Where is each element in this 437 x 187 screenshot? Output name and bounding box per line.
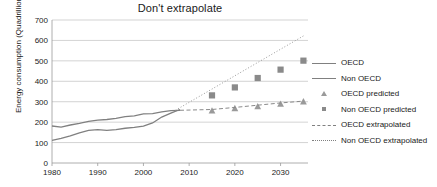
y-axis-tick-label: 0 [44,159,48,168]
y-axis-tick-label: 700 [35,16,48,25]
legend-key-solid-line-icon [311,57,337,69]
y-axis-tick-label: 600 [35,36,48,45]
data-marker-triangle [209,107,216,113]
legend-item-oecd-extrapolated[interactable]: OECD extrapolated [311,117,435,133]
series-line-non-oecd-extrapolated [175,36,303,110]
y-axis-tick-label: 300 [35,97,48,106]
legend-key-dashed-line-icon [311,119,337,131]
legend: OECD Non OECD OECD predicted Non OECD pr… [311,55,435,148]
legend-label: OECD predicted [341,89,399,98]
y-axis-tick-label: 100 [35,138,48,147]
data-marker-square [209,92,215,98]
legend-item-oecd[interactable]: OECD [311,55,435,71]
x-axis-tick-label: 1990 [89,168,107,177]
legend-key-square-marker-icon [311,103,337,115]
data-marker-triangle [254,103,261,109]
chart-title: Don't extrapolate [52,2,308,14]
y-axis-tick-label: 400 [35,77,48,86]
x-axis-tick-label: 1980 [43,168,61,177]
data-marker-square [232,84,238,90]
y-axis-label: Energy consumption (Quadrillion Btu) [14,0,23,117]
y-axis-tick-label: 200 [35,118,48,127]
x-axis-tick-label: 2010 [180,168,198,177]
legend-item-non-oecd-extrapolated[interactable]: Non OECD extrapolated [311,133,435,149]
x-axis-tick-label: 2030 [272,168,290,177]
legend-label: OECD extrapolated [341,120,410,129]
legend-label: Non OECD [341,74,381,83]
legend-key-solid-line-icon [311,72,337,84]
legend-key-dotted-line-icon [311,134,337,146]
legend-item-non-oecd[interactable]: Non OECD [311,71,435,87]
plot-area: 0100200300400500600700198019902000201020… [52,20,308,163]
legend-item-oecd-predicted[interactable]: OECD predicted [311,86,435,102]
legend-key-triangle-marker-icon [311,88,337,100]
legend-label: OECD [341,58,364,67]
plot-svg [52,20,308,163]
chart-container: Don't extrapolate Energy consumption (Qu… [0,0,437,187]
data-marker-square [277,67,283,73]
data-marker-square [300,58,306,64]
legend-label: Non OECD predicted [341,105,416,114]
y-axis-tick-label: 500 [35,56,48,65]
data-marker-square [255,75,261,81]
legend-item-non-oecd-predicted[interactable]: Non OECD predicted [311,102,435,118]
legend-label: Non OECD extrapolated [341,136,427,145]
x-axis-tick-label: 2000 [135,168,153,177]
series-line-oecd-extrapolated [180,101,303,110]
x-axis-tick-label: 2020 [226,168,244,177]
series-line-oecd [52,110,180,127]
